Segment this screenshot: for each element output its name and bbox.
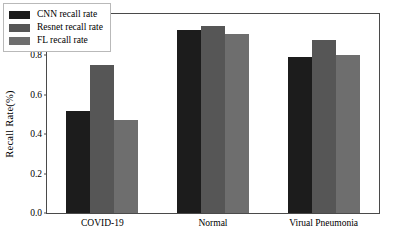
legend-item: FL recall rate — [9, 34, 103, 47]
legend-swatch-icon — [9, 11, 30, 19]
legend-label: FL recall rate — [37, 34, 88, 47]
bar — [201, 26, 225, 213]
y-tick-label: 0.2 — [11, 169, 47, 179]
legend-item: CNN recall rate — [9, 8, 103, 21]
y-tick-mark — [44, 94, 47, 95]
y-tick-label: 0.4 — [11, 129, 47, 139]
y-tick-label: 0.0 — [11, 208, 47, 218]
x-tick-label: Normal — [198, 218, 227, 228]
y-tick-label: 0.6 — [11, 90, 47, 100]
bar — [312, 40, 336, 213]
bar — [114, 120, 138, 213]
bar — [90, 65, 114, 213]
y-tick-mark — [44, 55, 47, 56]
x-tick-label: COVID-19 — [81, 218, 124, 228]
y-tick-mark — [44, 173, 47, 174]
bar-chart-figure: Recall Rate(%) 0.00.20.40.60.8COVID-19No… — [0, 0, 397, 248]
bar — [177, 30, 201, 213]
legend-swatch-icon — [9, 24, 30, 32]
y-tick-mark — [44, 134, 47, 135]
chart-legend: CNN recall rateResnet recall rateFL reca… — [3, 3, 111, 52]
legend-label: CNN recall rate — [37, 8, 97, 21]
y-tick-mark — [44, 213, 47, 214]
x-tick-label: Virual Pneumonia — [289, 218, 358, 228]
legend-label: Resnet recall rate — [37, 21, 103, 34]
bar — [66, 111, 90, 213]
legend-item: Resnet recall rate — [9, 21, 103, 34]
legend-swatch-icon — [9, 37, 30, 45]
bar — [288, 57, 312, 213]
bar — [225, 34, 249, 213]
bar — [336, 55, 360, 213]
